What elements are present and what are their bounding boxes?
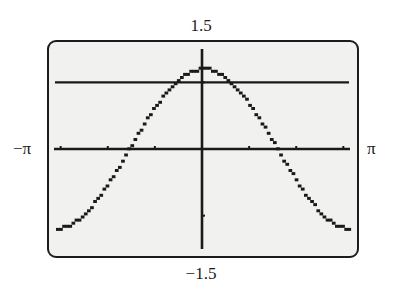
curve-pixel: [161, 95, 165, 98]
curve-pixel: [251, 107, 255, 110]
curve-pixel: [316, 209, 320, 212]
curve-pixel: [81, 216, 85, 219]
curve-pixel: [307, 197, 311, 200]
curve-pixel: [298, 185, 302, 188]
curve-pixel: [289, 169, 293, 172]
axes: [54, 49, 350, 249]
curve-pixel: [180, 76, 184, 79]
curve-pixel: [99, 194, 103, 197]
curve-pixel: [230, 82, 234, 85]
curve-pixel: [320, 212, 324, 215]
curve-pixel: [78, 219, 82, 222]
curve-pixel: [149, 113, 153, 116]
curve-pixel: [127, 147, 131, 150]
curve-pixel: [282, 160, 286, 163]
curve-pixel: [329, 219, 333, 222]
curve-pixel: [279, 154, 283, 157]
curve-pixel: [233, 85, 237, 88]
curve-pixel: [152, 107, 156, 110]
curve-pixel: [118, 166, 122, 169]
curve-pixel: [220, 73, 224, 76]
curve-pixel: [171, 85, 175, 88]
curve-pixel: [301, 188, 305, 191]
curve-pixel: [109, 178, 113, 181]
curve-pixel: [155, 104, 159, 107]
curve-pixel: [223, 76, 227, 79]
curve-pixel: [143, 123, 147, 126]
curve-pixel: [106, 185, 110, 188]
curve-pixel: [248, 104, 252, 107]
curve-pixel: [323, 216, 327, 219]
curve-pixel: [254, 113, 258, 116]
curve-pixel: [304, 194, 308, 197]
curve-pixel: [267, 132, 271, 135]
curve-pixel: [146, 116, 150, 119]
curve-pixel: [264, 126, 268, 129]
curve-pixel: [310, 200, 314, 203]
curve-pixel: [292, 172, 296, 175]
curve-pixel: [332, 222, 336, 225]
curve-pixel: [59, 228, 63, 231]
curve-pixel: [87, 209, 91, 212]
curve-pixel: [313, 203, 317, 206]
curve-pixel: [295, 178, 299, 181]
curve-pixel: [236, 88, 240, 91]
curve-pixel: [90, 206, 94, 209]
curve-pixel: [273, 141, 277, 144]
curve-pixel: [93, 200, 97, 203]
graph-plot: [0, 0, 405, 291]
curve-pixel: [72, 222, 76, 225]
curve-pixel: [245, 98, 249, 101]
curve-pixel: [285, 163, 289, 166]
curve-pixel: [68, 225, 72, 228]
curve-pixel: [112, 175, 116, 178]
curve-pixel: [115, 169, 119, 172]
curve-pixel: [261, 123, 265, 126]
curve-pixel: [177, 79, 181, 82]
curve-pixel: [134, 138, 138, 141]
curve-pixel: [214, 70, 218, 73]
curve-pixel: [239, 92, 243, 95]
curve-pixel: [124, 154, 128, 157]
curve-pixel: [242, 95, 246, 98]
curve-pixel: [140, 129, 144, 132]
curve-pixel: [130, 144, 134, 147]
curve-pixel: [347, 228, 351, 231]
curve-pixel: [208, 67, 212, 70]
curve-pixel: [121, 160, 125, 163]
curve-pixel: [270, 138, 274, 141]
curve-pixel: [96, 197, 100, 200]
curve-pixel: [174, 82, 178, 85]
curve-pixel: [341, 225, 345, 228]
curve-pixel: [103, 188, 107, 191]
curve-pixel: [165, 92, 169, 95]
curve-pixel: [276, 147, 280, 150]
curve-pixel: [84, 212, 88, 215]
curve-pixel: [258, 116, 262, 119]
curve-pixel: [186, 73, 190, 76]
curve-pixel: [137, 132, 141, 135]
curve-pixel: [168, 88, 172, 91]
curve-pixel: [227, 79, 231, 82]
curve-pixel: [196, 70, 200, 73]
curve-pixel: [158, 101, 162, 104]
